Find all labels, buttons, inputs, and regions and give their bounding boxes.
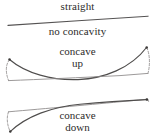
label-concave-up-line2: up: [0, 57, 155, 69]
label-concave-down-line2: down: [0, 121, 155, 133]
concave-down-right-endpoint: [146, 98, 149, 101]
concavity-figure: straight no concavity concave up concave…: [0, 0, 155, 133]
label-straight: straight: [0, 1, 155, 12]
label-concave-down-line1: concave: [0, 109, 155, 121]
label-no-concavity: no concavity: [0, 26, 155, 37]
label-concave-up-line1: concave: [0, 45, 155, 57]
label-concave-up: concave up: [0, 45, 155, 70]
label-concave-down: concave down: [0, 109, 155, 133]
